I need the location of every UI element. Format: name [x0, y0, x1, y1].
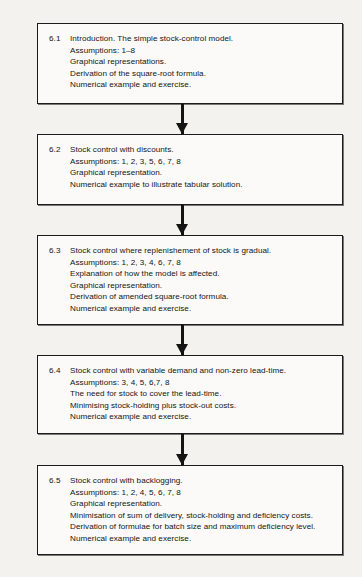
arrow-down-icon	[176, 325, 188, 355]
node-text-line: Stock control where replenishement of st…	[70, 245, 336, 257]
flowchart-node-6-4: 6.4 Stock control with variable demand a…	[37, 355, 343, 434]
arrow-down-icon	[176, 434, 188, 465]
node-text-line: Introduction. The simple stock-control m…	[70, 33, 336, 45]
node-section-number: 6.1	[49, 33, 70, 45]
node-text-line: Assumptions: 1, 2, 3, 5, 6, 7, 8	[70, 156, 336, 168]
arrow-head	[176, 224, 188, 235]
node-text-line: Numerical example and exercise.	[70, 411, 336, 423]
node-content: 6.2 Stock control with discounts. Assump…	[38, 135, 342, 198]
node-text-line: Graphical representation.	[70, 280, 336, 292]
node-text-line: Assumptions: 1, 2, 3, 4, 6, 7, 8	[70, 257, 336, 269]
flowchart-node-6-3: 6.3 Stock control where replenishement o…	[37, 235, 343, 325]
node-text-line: Numerical example and exercise.	[70, 79, 336, 91]
node-text-line: Assumptions: 1–8	[70, 45, 336, 57]
node-text-line: Derivation of the square-root formula.	[70, 68, 336, 80]
node-section-number: 6.2	[49, 144, 70, 156]
node-section-number: 6.3	[49, 245, 70, 257]
node-content: 6.5 Stock control with backlogging. Assu…	[38, 466, 342, 553]
node-content: 6.3 Stock control where replenishement o…	[38, 236, 342, 323]
node-section-number: 6.4	[49, 365, 70, 377]
node-text-line: Numerical example and exercise.	[70, 303, 336, 315]
flowchart-node-6-1: 6.1 Introduction. The simple stock-contr…	[37, 23, 343, 104]
node-text-line: Stock control with backlogging.	[70, 475, 336, 487]
node-text-line: Minimisation of sum of delivery, stock-h…	[70, 510, 336, 522]
arrow-head	[176, 454, 188, 465]
node-text-line: Graphical representation.	[70, 498, 336, 510]
node-text-line: The need for stock to cover the lead-tim…	[70, 388, 336, 400]
node-text-line: Derivation of formulae for batch size an…	[70, 521, 336, 533]
node-text-line: Derivation of amended square-root formul…	[70, 291, 336, 303]
node-content: 6.1 Introduction. The simple stock-contr…	[38, 24, 342, 99]
arrow-down-icon	[176, 205, 188, 235]
node-text-block: Stock control where replenishement of st…	[70, 245, 336, 315]
node-text-line: Graphical representation.	[70, 167, 336, 179]
arrow-head	[176, 123, 188, 134]
node-text-line: Stock control with variable demand and n…	[70, 365, 336, 377]
node-text-line: Graphical representations.	[70, 56, 336, 68]
node-text-block: Introduction. The simple stock-control m…	[70, 33, 336, 91]
arrow-head	[176, 344, 188, 355]
node-text-line: Explanation of how the model is affected…	[70, 268, 336, 280]
node-text-line: Minimising stock-holding plus stock-out …	[70, 400, 336, 412]
node-text-block: Stock control with discounts. Assumption…	[70, 144, 336, 190]
node-text-line: Assumptions: 1, 2, 4, 5, 6, 7, 8	[70, 487, 336, 499]
node-text-line: Assumptions: 3, 4, 5, 6,7, 8	[70, 377, 336, 389]
flowchart-node-6-2: 6.2 Stock control with discounts. Assump…	[37, 134, 343, 205]
node-section-number: 6.5	[49, 475, 70, 487]
node-text-line: Numerical example to illustrate tabular …	[70, 179, 336, 191]
node-content: 6.4 Stock control with variable demand a…	[38, 356, 342, 431]
node-text-line: Stock control with discounts.	[70, 144, 336, 156]
flowchart-node-6-5: 6.5 Stock control with backlogging. Assu…	[37, 465, 343, 555]
node-text-block: Stock control with backlogging. Assumpti…	[70, 475, 336, 545]
flowchart-diagram: 6.1 Introduction. The simple stock-contr…	[0, 0, 362, 577]
arrow-down-icon	[176, 104, 188, 134]
node-text-block: Stock control with variable demand and n…	[70, 365, 336, 423]
node-text-line: Numerical example and exercise.	[70, 533, 336, 545]
